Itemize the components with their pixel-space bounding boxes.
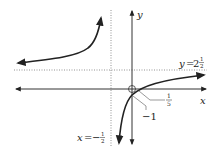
svg-text:x: x <box>77 132 83 143</box>
svg-text:5: 5 <box>167 100 171 107</box>
svg-text:1: 1 <box>200 56 204 62</box>
x-intercept-leader <box>139 91 165 100</box>
svg-text:2: 2 <box>200 63 204 69</box>
svg-text:1: 1 <box>167 92 171 99</box>
y-axis-label: y <box>136 9 143 20</box>
y-intercept-leader <box>133 96 146 110</box>
vertical-asymptote-label: x = − 1 2 <box>77 131 105 144</box>
svg-text:y: y <box>178 58 185 69</box>
svg-text:2: 2 <box>193 58 199 69</box>
x-axis-label: x <box>200 95 206 106</box>
svg-text:−: − <box>92 132 100 143</box>
x-intercept-label: 1 5 <box>166 92 172 107</box>
svg-text:2: 2 <box>101 138 105 144</box>
graph-canvas: y x y = 2 1 2 1 5 −1 x = − 1 2 <box>0 0 214 151</box>
horizontal-asymptote-label: y = 2 1 2 <box>178 56 204 69</box>
curve-left-branch <box>18 18 101 63</box>
svg-text:1: 1 <box>101 131 105 137</box>
y-intercept-label: −1 <box>142 111 157 122</box>
